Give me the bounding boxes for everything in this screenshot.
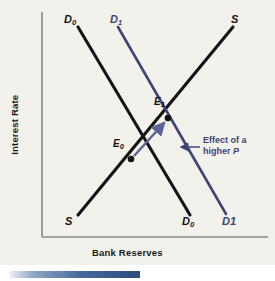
decorative-gradient-bar [10, 271, 140, 278]
axis-lines [42, 12, 268, 237]
label-demand1-bottom: D1 [222, 216, 236, 227]
label-supply-bottom: S [65, 216, 72, 227]
label-demand0-bottom: D0 [182, 216, 194, 228]
effect-note-variable: P [233, 146, 239, 156]
label-supply-top: S [231, 14, 238, 25]
label-demand1-top: D1 [110, 14, 122, 26]
supply-demand-figure: D0 D1 S S D0 D1 E0 E1 Effect of a higher… [0, 0, 275, 281]
label-equilibrium-e1: E1 [154, 97, 165, 108]
x-axis-title: Bank Reserves [92, 248, 163, 258]
effect-of-higher-p-note: Effect of a higher P [203, 135, 269, 158]
equilibrium-point-e0 [128, 156, 135, 163]
y-axis-title: Interest Rate [10, 85, 20, 165]
effect-note-line1: Effect of a [203, 135, 247, 145]
equilibrium-point-e1 [165, 115, 172, 122]
effect-note-line2: higher [203, 146, 233, 156]
label-demand0-top: D0 [64, 14, 76, 26]
label-equilibrium-e0: E0 [113, 139, 124, 150]
